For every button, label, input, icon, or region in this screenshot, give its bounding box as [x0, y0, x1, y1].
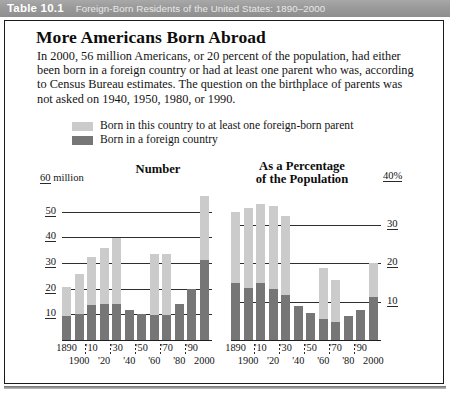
- x-tick-90: '90: [177, 343, 207, 353]
- bar-segment-native: [62, 287, 71, 317]
- bar-segment-foreign: [356, 310, 365, 340]
- bar-segment-foreign: [331, 322, 340, 340]
- bar-1890[interactable]: [62, 287, 71, 340]
- y-tick-20: 20: [387, 257, 407, 268]
- chart-title-number: Number: [110, 163, 206, 176]
- y-tick-label: 10: [45, 307, 56, 319]
- chart-legend: Born in this country to at least one for…: [72, 120, 353, 148]
- bar-segment-foreign: [137, 314, 146, 340]
- bar-40[interactable]: [294, 306, 303, 340]
- bar-segment-native: [244, 208, 253, 287]
- bar-segment-foreign: [187, 289, 196, 340]
- x-tick-2000: 2000: [189, 356, 219, 366]
- bar-segment-foreign: [112, 304, 121, 340]
- y-tick-label: 20: [387, 256, 398, 268]
- bar-1900[interactable]: [244, 208, 253, 340]
- bar-80[interactable]: [344, 316, 353, 340]
- legend-swatch-dark: [72, 136, 93, 145]
- axis-unit-right-suffix: %: [394, 170, 403, 182]
- bar-20[interactable]: [100, 248, 109, 340]
- bar-segment-foreign: [369, 297, 378, 340]
- bar-10[interactable]: [87, 257, 96, 340]
- bar-segment-foreign: [269, 289, 278, 340]
- x-axis-dash-separator: [110, 344, 111, 355]
- bar-20[interactable]: [269, 206, 278, 340]
- bar-segment-foreign: [162, 315, 171, 340]
- bar-2000[interactable]: [200, 196, 209, 340]
- legend-label-light: Born in this country to at least one for…: [100, 120, 353, 132]
- bar-1890[interactable]: [231, 212, 240, 340]
- figure-description: In 2000, 56 million Americans, or 20 per…: [37, 49, 419, 106]
- y-tick-label: 40: [45, 230, 56, 242]
- y-tick-30: 30: [36, 257, 56, 268]
- y-tick-40: 40: [36, 231, 56, 242]
- bar-50[interactable]: [306, 313, 315, 340]
- legend-swatch-light: [72, 122, 93, 131]
- y-tick-label: 20: [45, 282, 56, 294]
- axis-unit-right: 40%: [383, 170, 402, 181]
- bar-80[interactable]: [175, 304, 184, 340]
- bar-segment-native: [162, 254, 171, 315]
- table-header-title: Foreign-Born Residents of the United Sta…: [76, 4, 325, 14]
- bar-90[interactable]: [356, 310, 365, 340]
- bar-60[interactable]: [150, 254, 159, 340]
- bar-segment-foreign: [244, 288, 253, 340]
- bar-segment-native: [75, 274, 84, 314]
- bar-50[interactable]: [137, 314, 146, 340]
- x-axis-dash-separator: [185, 344, 186, 355]
- chart-title-percentage: As a Percentage of the Population: [243, 160, 361, 186]
- bar-segment-foreign: [319, 319, 328, 340]
- bar-1900[interactable]: [75, 274, 84, 340]
- bar-70[interactable]: [331, 280, 340, 340]
- x-tick-2000: 2000: [358, 356, 388, 366]
- bar-segment-native: [269, 206, 278, 289]
- y-tick-10: 10: [36, 308, 56, 319]
- bar-segment-native: [281, 216, 290, 295]
- bar-group: [62, 186, 212, 340]
- bar-segment-foreign: [75, 314, 84, 340]
- bar-segment-foreign: [87, 305, 96, 340]
- bar-segment-native: [150, 254, 159, 315]
- y-tick-30: 30: [387, 219, 407, 230]
- x-tick-90: '90: [346, 343, 376, 353]
- chart-plot-number: [62, 186, 212, 340]
- bar-segment-native: [369, 263, 378, 297]
- frame-shadow: [4, 386, 446, 389]
- x-axis-dash-separator: [354, 344, 355, 355]
- bar-group: [231, 186, 381, 340]
- bar-segment-foreign: [306, 313, 315, 340]
- bar-60[interactable]: [319, 268, 328, 340]
- bar-segment-foreign: [231, 283, 240, 340]
- axis-baseline: [62, 340, 212, 341]
- bar-segment-foreign: [150, 315, 159, 340]
- y-tick-label: 30: [45, 256, 56, 268]
- bar-30[interactable]: [112, 238, 121, 340]
- bar-segment-foreign: [281, 295, 290, 340]
- bar-10[interactable]: [256, 204, 265, 340]
- bar-90[interactable]: [187, 289, 196, 340]
- bar-segment-foreign: [256, 283, 265, 340]
- axis-unit-left-suffix: million: [51, 172, 84, 183]
- bar-segment-native: [100, 248, 109, 304]
- bar-30[interactable]: [281, 216, 290, 340]
- bar-segment-foreign: [125, 310, 134, 340]
- bar-segment-foreign: [294, 306, 303, 340]
- x-axis-dash-separator: [160, 344, 161, 355]
- chart-plot-percentage: [231, 186, 381, 340]
- bar-segment-native: [112, 238, 121, 303]
- x-axis-dash-separator: [85, 344, 86, 355]
- bar-segment-native: [231, 212, 240, 283]
- x-axis-dash-separator: [304, 344, 305, 355]
- legend-item-native: Born in this country to at least one for…: [72, 120, 353, 132]
- axis-baseline: [231, 340, 381, 341]
- x-axis-dash-separator: [329, 344, 330, 355]
- bar-70[interactable]: [162, 254, 171, 340]
- bar-40[interactable]: [125, 310, 134, 340]
- figure-headline: More Americans Born Abroad: [36, 27, 266, 48]
- bar-segment-foreign: [175, 304, 184, 340]
- y-tick-label: 30: [387, 218, 398, 230]
- y-tick-10: 10: [387, 296, 407, 307]
- bar-2000[interactable]: [369, 263, 378, 340]
- x-axis-dash-separator: [254, 344, 255, 355]
- bar-segment-foreign: [62, 316, 71, 340]
